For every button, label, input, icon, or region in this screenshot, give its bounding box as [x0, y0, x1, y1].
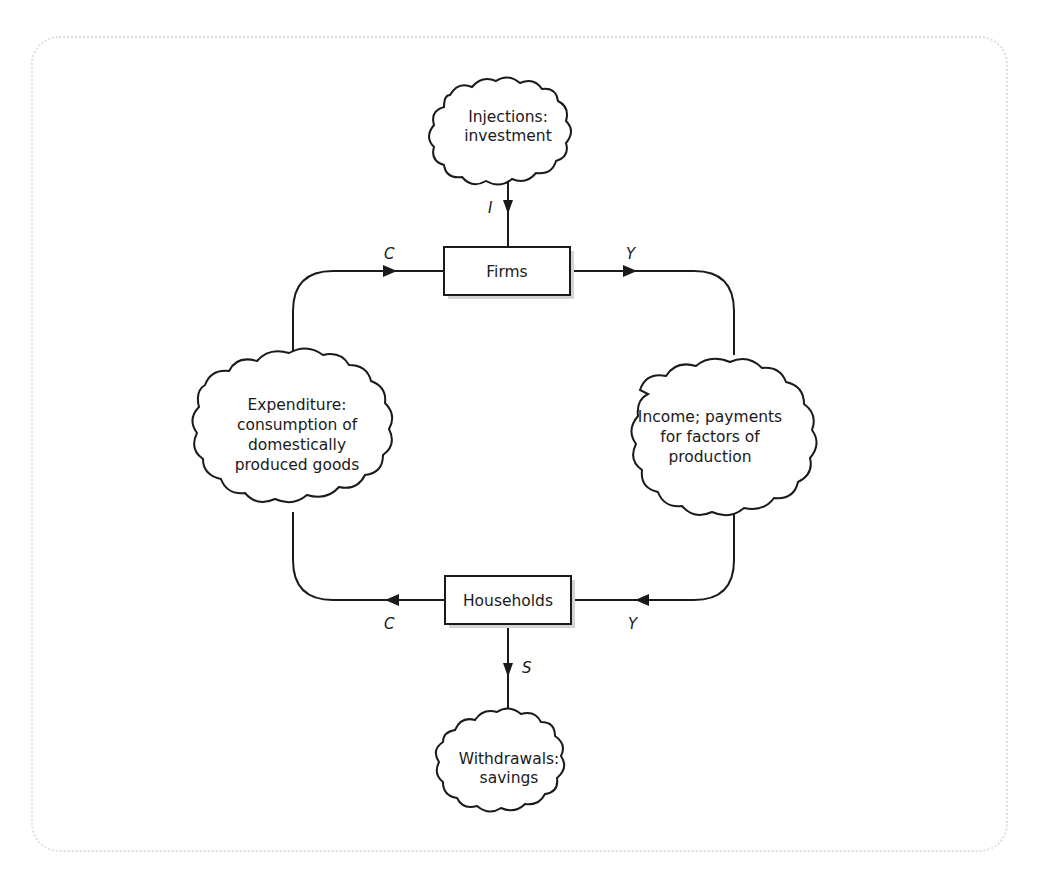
income-line-3: production: [668, 448, 751, 466]
injections-cloud: Injections: investment: [429, 77, 571, 184]
expenditure-line-2: consumption of: [237, 416, 358, 434]
income-line-1: Income; payments: [638, 408, 782, 426]
withdrawals-cloud: Withdrawals: savings: [436, 708, 564, 811]
flow-line-right-top: [570, 271, 734, 355]
households-label: Households: [463, 592, 553, 610]
injections-line-1: Injections:: [468, 108, 548, 126]
flow-label-income-bottom: Y: [628, 615, 639, 633]
firms-node: Firms: [444, 247, 574, 299]
withdrawals-line-1: Withdrawals:: [459, 750, 560, 768]
expenditure-line-3: domestically: [248, 436, 346, 454]
expenditure-cloud: Expenditure: consumption of domestically…: [192, 348, 392, 502]
income-line-2: for factors of: [660, 428, 760, 446]
arrow-right-consumption-icon: [383, 265, 397, 277]
firms-label: Firms: [486, 263, 527, 281]
arrow-down-savings-icon: [503, 663, 513, 677]
arrow-right-income-icon: [623, 265, 637, 277]
flow-line-left-top: [293, 271, 444, 352]
flow-label-savings: S: [522, 659, 532, 677]
expenditure-line-4: produced goods: [235, 456, 360, 474]
flow-label-consumption-top: C: [384, 245, 395, 263]
flow-line-right-bottom: [571, 510, 734, 600]
arrow-left-consumption-icon: [385, 594, 399, 606]
arrow-down-investment-icon: [503, 200, 513, 214]
expenditure-line-1: Expenditure:: [247, 396, 346, 414]
withdrawals-line-2: savings: [480, 769, 539, 787]
flow-label-consumption-bottom: C: [384, 615, 395, 633]
flow-line-left-bottom: [293, 512, 445, 600]
flow-label-investment: I: [488, 199, 493, 217]
injections-line-2: investment: [464, 127, 552, 145]
income-cloud: Income; payments for factors of producti…: [631, 359, 816, 515]
flow-label-income-top: Y: [626, 245, 637, 263]
circular-flow-diagram: I C Y C Y S Firms Households Injections:…: [0, 0, 1037, 877]
arrow-left-income-icon: [635, 594, 649, 606]
households-node: Households: [445, 576, 575, 628]
